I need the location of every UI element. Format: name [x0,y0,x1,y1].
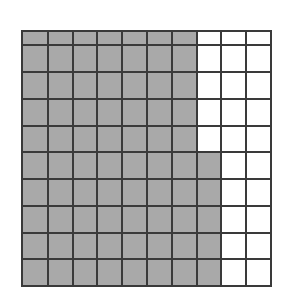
grid-cell-shaded [97,126,122,153]
grid-cell-shaded [172,99,197,126]
grid-cell-unshaded [221,152,246,179]
grid-cell-shaded [147,152,172,179]
grid-row [23,99,271,126]
grid-cell-shaded [73,233,98,260]
grid-cell-shaded [147,99,172,126]
grid-cell-shaded [23,259,48,286]
grid-cell-shaded [97,179,122,206]
grid-cell-shaded [197,259,222,286]
grid-row [23,233,271,260]
grid-row [23,72,271,99]
grid-cell-shaded [147,126,172,153]
grid-cell-unshaded [221,32,246,45]
grid-cell-shaded [23,126,48,153]
grid-cell-unshaded [246,45,271,72]
grid-cell-unshaded [221,72,246,99]
grid-cell-shaded [23,206,48,233]
grid-cell-shaded [48,72,73,99]
grid-cell-shaded [73,259,98,286]
grid-cell-shaded [197,179,222,206]
grid-cell-unshaded [197,32,222,45]
grid-cell-shaded [122,233,147,260]
grid-cell-shaded [172,206,197,233]
grid-cell-shaded [23,32,48,45]
grid-cell-shaded [73,206,98,233]
grid-cell-shaded [48,152,73,179]
grid-cell-shaded [172,32,197,45]
grid-cell-unshaded [246,179,271,206]
grid-cell-shaded [48,206,73,233]
grid-cell-unshaded [221,126,246,153]
grid-cell-shaded [147,72,172,99]
grid-cell-unshaded [197,72,222,99]
grid-cell-unshaded [197,45,222,72]
grid-cell-shaded [122,45,147,72]
grid-cell-shaded [97,259,122,286]
grid-row [23,179,271,206]
grid-cell-shaded [48,99,73,126]
grid-cell-shaded [172,259,197,286]
grid-cell-shaded [122,126,147,153]
grid-cell-shaded [73,72,98,99]
grid-cell-unshaded [246,259,271,286]
grid-body [23,32,271,286]
grid-cell-shaded [73,45,98,72]
grid-cell-shaded [23,233,48,260]
grid-cell-unshaded [221,45,246,72]
grid-cell-shaded [23,99,48,126]
grid-cell-unshaded [246,126,271,153]
grid-row [23,152,271,179]
grid-cell-unshaded [246,206,271,233]
grid-row [23,206,271,233]
grid-cell-unshaded [221,259,246,286]
grid-cell-unshaded [246,152,271,179]
grid-cell-unshaded [221,179,246,206]
grid-cell-shaded [73,179,98,206]
grid-cell-unshaded [221,99,246,126]
grid-cell-unshaded [246,32,271,45]
grid-cell-shaded [97,152,122,179]
grid-cell-unshaded [197,99,222,126]
grid-cell-shaded [97,32,122,45]
grid-cell-shaded [48,126,73,153]
grid-cell-shaded [122,72,147,99]
grid-cell-unshaded [246,72,271,99]
grid-row [23,45,271,72]
grid-cell-shaded [172,152,197,179]
grid-row [23,126,271,153]
grid-cell-shaded [48,179,73,206]
grid-cell-shaded [147,179,172,206]
grid-cell-shaded [197,152,222,179]
grid-cell-shaded [197,233,222,260]
grid-cell-shaded [122,32,147,45]
grid-cell-shaded [97,99,122,126]
grid-cell-shaded [122,179,147,206]
grid-cell-shaded [73,32,98,45]
grid-cell-shaded [48,32,73,45]
grid-cell-unshaded [221,233,246,260]
grid-cell-shaded [147,259,172,286]
grid-row [23,259,271,286]
grid-cell-shaded [147,233,172,260]
grid-row [23,32,271,45]
grid-cell-shaded [147,206,172,233]
grid-cell-shaded [73,99,98,126]
grid-cell-unshaded [246,99,271,126]
grid-cell-shaded [122,259,147,286]
grid-cell-shaded [48,233,73,260]
grid-cell-shaded [172,126,197,153]
grid-cell-unshaded [221,206,246,233]
grid-cell-shaded [97,233,122,260]
grid-cell-shaded [48,45,73,72]
grid-cell-shaded [172,45,197,72]
grid-cell-shaded [97,206,122,233]
grid-table [23,32,272,287]
grid-cell-shaded [97,72,122,99]
grid-cell-shaded [197,206,222,233]
grid-cell-unshaded [246,233,271,260]
grid-cell-shaded [147,32,172,45]
grid-cell-shaded [172,233,197,260]
grid-cell-shaded [147,45,172,72]
grid-cell-unshaded [197,126,222,153]
grid-cell-shaded [73,152,98,179]
